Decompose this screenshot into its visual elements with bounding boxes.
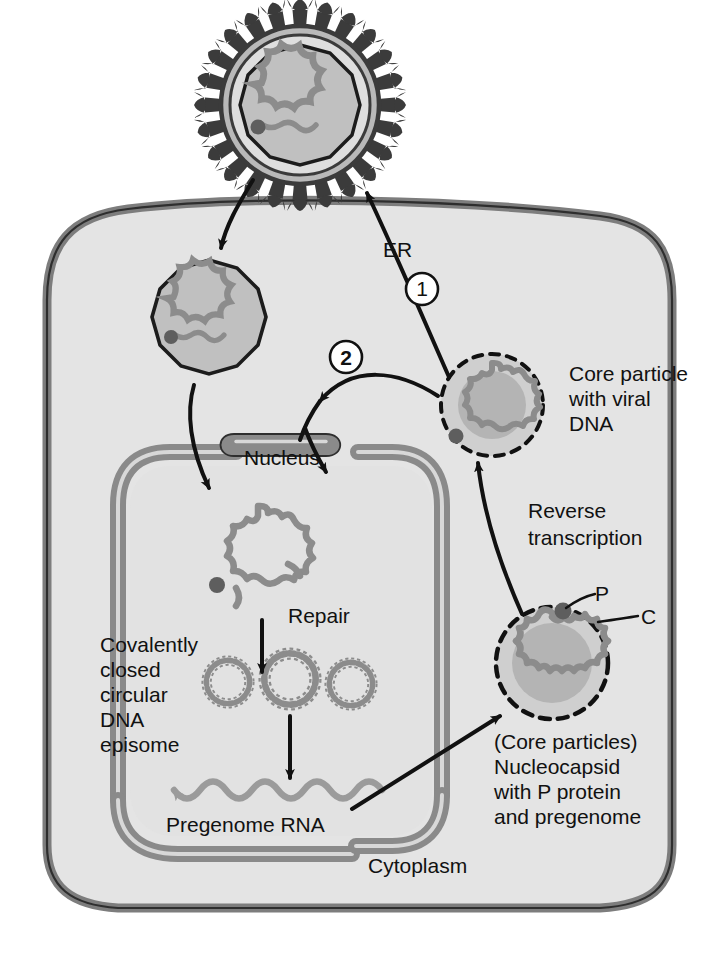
nucleocapsid-line3: with P protein bbox=[493, 780, 621, 803]
repair-label: Repair bbox=[288, 604, 350, 627]
p-protein-dot bbox=[251, 120, 266, 135]
cytoplasm-label: Cytoplasm bbox=[368, 854, 467, 877]
pregenome-rna-label: Pregenome RNA bbox=[166, 813, 325, 836]
er-label: ER bbox=[383, 238, 412, 261]
virion-particle bbox=[194, 0, 406, 211]
reverse-transcription-line1: Reverse bbox=[528, 499, 606, 522]
step-badge-2: 2 bbox=[330, 341, 362, 373]
reverse-transcription-line2: transcription bbox=[528, 526, 642, 549]
nucleus-label: Nucleus bbox=[244, 446, 320, 469]
core-particle-label-line1: Core particle bbox=[569, 362, 688, 385]
cccdna-line5: episome bbox=[100, 733, 179, 756]
hbv-replication-diagram: 1 2 ER Core particle with viral DNA Nucl… bbox=[0, 0, 713, 959]
c-protein-label: C bbox=[641, 605, 656, 628]
core-particle-label-line2: with viral bbox=[568, 387, 651, 410]
core-particle-viral-dna bbox=[441, 354, 543, 456]
nucleocapsid-line1: (Core particles) bbox=[494, 730, 638, 753]
step-2-label: 2 bbox=[340, 346, 352, 369]
diagram-canvas: 1 2 ER Core particle with viral DNA Nucl… bbox=[0, 0, 713, 959]
core-particle-label-line3: DNA bbox=[569, 412, 613, 435]
cccdna-line4: DNA bbox=[100, 708, 144, 731]
nucleocapsid-line4: and pregenome bbox=[494, 805, 641, 828]
nucleocapsid-line2: Nucleocapsid bbox=[494, 755, 620, 778]
step-1-label: 1 bbox=[416, 277, 428, 300]
p-protein-label: P bbox=[595, 582, 609, 605]
cccdna-line1: Covalently bbox=[100, 633, 199, 656]
step-badge-1: 1 bbox=[406, 273, 438, 305]
cccdna-line2: closed bbox=[100, 658, 161, 681]
cccdna-line3: circular bbox=[100, 683, 168, 706]
nucleocapsid-particle bbox=[496, 603, 608, 720]
